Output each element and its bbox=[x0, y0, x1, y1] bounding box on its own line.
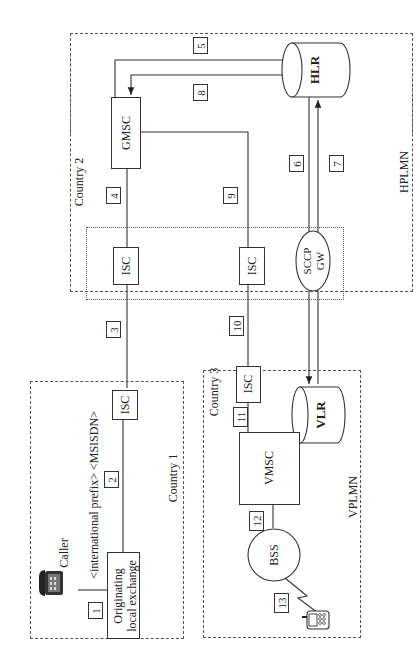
vmsc-label: VMSC bbox=[263, 451, 276, 485]
bss-label: BSS bbox=[268, 544, 281, 565]
step-1: 1 bbox=[90, 608, 103, 614]
step-3: 3 bbox=[108, 327, 121, 333]
call-routing-diagram: Originating local exchange ISC ISC ISC I… bbox=[0, 0, 420, 660]
hplmn-label: HPLMN bbox=[398, 151, 411, 193]
isc-country1-label: ISC bbox=[119, 396, 132, 415]
dialed-number-label: <international prefix> <MSISDN> bbox=[88, 411, 101, 579]
step-7: 7 bbox=[331, 161, 344, 167]
step-4: 4 bbox=[108, 193, 121, 199]
originating-label-1: Originating bbox=[112, 568, 125, 623]
step-9: 9 bbox=[225, 193, 238, 199]
country3-label: Country 3 bbox=[208, 368, 221, 416]
country2-label: Country 2 bbox=[73, 158, 86, 206]
gw-label: GW bbox=[314, 252, 327, 270]
step-8: 8 bbox=[195, 90, 208, 96]
sccp-label: SCCP bbox=[301, 248, 314, 275]
vlr-label: VLR bbox=[314, 401, 327, 428]
step-2: 2 bbox=[106, 477, 119, 483]
step-6: 6 bbox=[291, 161, 304, 167]
step-10: 10 bbox=[231, 321, 244, 332]
step-11: 11 bbox=[235, 412, 248, 423]
step-12: 12 bbox=[251, 516, 264, 527]
gmsc-label: GMSC bbox=[120, 116, 133, 150]
vplmn-label: VPLMN bbox=[347, 476, 360, 518]
step-13: 13 bbox=[276, 598, 289, 609]
step-5: 5 bbox=[195, 43, 208, 49]
isc-country3-label: ISC bbox=[242, 375, 255, 394]
isc-country2a-label: ISC bbox=[120, 257, 133, 276]
hlr-label: HLR bbox=[308, 56, 321, 84]
isc-country2b-label: ISC bbox=[246, 257, 259, 276]
country1-label: Country 1 bbox=[167, 454, 180, 502]
caller-label: Caller bbox=[58, 538, 71, 567]
originating-label-2: local exchange bbox=[126, 560, 139, 632]
